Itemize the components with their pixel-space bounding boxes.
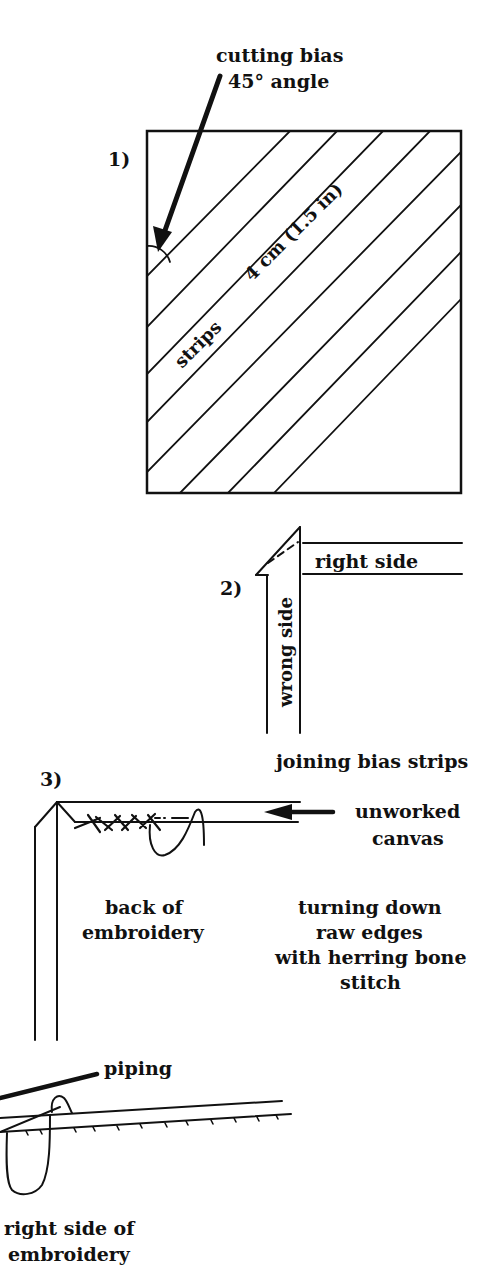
- right-side-label: right side: [315, 550, 418, 572]
- embroidery-back-label: embroidery: [82, 921, 204, 943]
- stitch-label: stitch: [340, 971, 401, 993]
- raw-edges-label: raw edges: [316, 921, 423, 943]
- step-2-number: 2): [220, 577, 242, 599]
- embroidery-right-label: embroidery: [8, 1243, 130, 1265]
- wrong-side-label: wrong side: [275, 597, 296, 707]
- right-side-of-label: right side of: [4, 1217, 134, 1239]
- step-1-number: 1): [108, 148, 130, 170]
- diagram-drawing: [0, 0, 483, 1274]
- piping-label: piping: [104, 1057, 172, 1079]
- herring-bone-label: with herring bone: [275, 946, 467, 968]
- step-3-number: 3): [40, 768, 62, 790]
- arrow-head: [153, 226, 172, 252]
- thread-loop: [150, 810, 204, 856]
- canvas-label: canvas: [372, 827, 444, 849]
- callout-cutting-bias: cutting bias: [216, 44, 343, 66]
- unworked-label: unworked: [355, 800, 460, 822]
- back-of-label: back of: [105, 896, 183, 918]
- joining-bias-strips-caption: joining bias strips: [276, 750, 468, 772]
- callout-45-angle: 45° angle: [228, 70, 329, 92]
- turning-down-label: turning down: [298, 896, 441, 918]
- thread-loop-bottom: [7, 1096, 72, 1194]
